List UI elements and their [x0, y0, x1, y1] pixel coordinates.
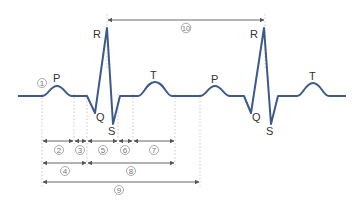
svg-text:2: 2: [57, 146, 62, 155]
ecg-diagram: P R Q S T P R Q S T 1 2 3 5 6 7: [0, 0, 362, 210]
label-q2: Q: [252, 111, 261, 123]
label-p1: P: [53, 72, 60, 84]
marker-7: 7: [150, 146, 159, 156]
label-r2: R: [250, 28, 258, 40]
marker-5: 5: [99, 146, 108, 156]
marker-10: 10: [181, 23, 191, 33]
label-p2: P: [211, 73, 218, 85]
label-t2: T: [309, 70, 316, 82]
svg-text:9: 9: [117, 186, 122, 195]
marker-9: 9: [115, 186, 124, 196]
svg-text:3: 3: [78, 146, 83, 155]
marker-3: 3: [76, 146, 85, 156]
svg-text:8: 8: [129, 167, 134, 176]
marker-6: 6: [121, 146, 130, 156]
marker-1: 1: [38, 79, 47, 89]
label-s1: S: [108, 125, 115, 137]
svg-text:10: 10: [182, 25, 190, 32]
svg-text:5: 5: [101, 146, 106, 155]
label-r1: R: [93, 28, 101, 40]
marker-4: 4: [61, 167, 70, 177]
svg-text:1: 1: [40, 79, 45, 88]
ecg-waveform: [18, 28, 346, 124]
label-q1: Q: [96, 111, 105, 123]
label-s2: S: [266, 125, 273, 137]
label-t1: T: [150, 69, 157, 81]
svg-text:4: 4: [63, 167, 68, 176]
svg-text:7: 7: [152, 146, 157, 155]
svg-text:6: 6: [123, 146, 128, 155]
marker-8: 8: [127, 167, 136, 177]
guide-lines: [42, 14, 265, 188]
marker-2: 2: [55, 146, 64, 156]
